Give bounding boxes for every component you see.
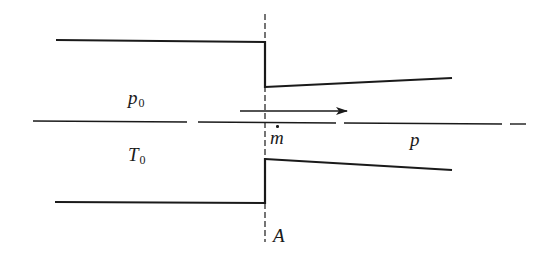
label-t0-symbol: T — [128, 144, 139, 165]
label-mdot-symbol: m — [270, 128, 284, 147]
label-p0-symbol: p — [128, 87, 138, 108]
label-p-symbol: p — [410, 129, 420, 150]
label-p0: p0 — [128, 88, 145, 109]
upper-right-wall — [265, 78, 452, 87]
centerline — [33, 121, 526, 124]
label-t0-subscript: 0 — [140, 153, 146, 167]
label-area-a: A — [273, 226, 285, 245]
upper-left-wall — [56, 40, 265, 42]
label-mass-flow: m — [270, 128, 284, 147]
label-p: p — [410, 130, 420, 149]
label-p0-subscript: 0 — [139, 96, 145, 110]
nozzle-flow-diagram: p0 T0 m p A — [0, 0, 559, 254]
label-t0: T0 — [128, 145, 146, 166]
lower-right-wall — [265, 159, 452, 170]
label-a-symbol: A — [273, 225, 285, 246]
lower-left-wall — [55, 202, 265, 203]
